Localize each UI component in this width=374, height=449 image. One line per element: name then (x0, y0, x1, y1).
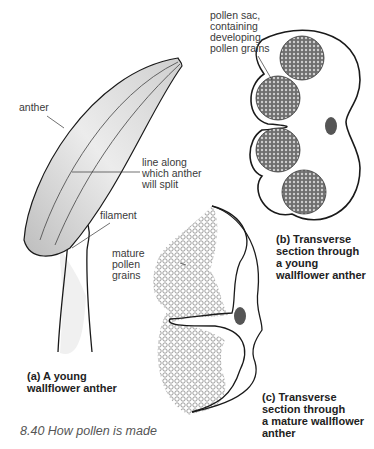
caption-c: (c) Transverse section through a mature … (262, 391, 364, 439)
pollen-sac (256, 76, 300, 120)
pollen-sac (256, 128, 300, 172)
vascular-bundle (325, 117, 337, 135)
label-filament: filament (100, 210, 137, 221)
label-mature-pollen: mature pollen grains (112, 248, 145, 281)
caption-b: (b) Transverse section through a young w… (276, 233, 366, 281)
mature-section-drawing (153, 206, 262, 415)
label-pollen-sac: pollen sac, containing developing pollen… (210, 10, 270, 54)
pollen-sac (282, 170, 326, 214)
vascular-bundle (234, 307, 246, 325)
label-anther: anther (19, 102, 49, 113)
caption-a: (a) A young wallflower anther (27, 370, 117, 394)
pollen-sac (280, 36, 324, 80)
figure-caption: 8.40 How pollen is made (20, 424, 157, 438)
young-section-drawing (250, 30, 360, 219)
anther-pointer (47, 116, 64, 128)
label-split-line: line along which anther will split (142, 157, 202, 190)
